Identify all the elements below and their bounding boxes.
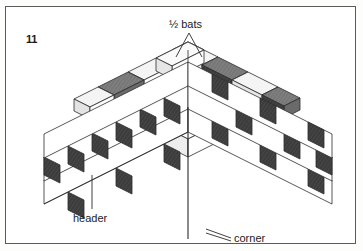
label-bats-text: bats — [181, 18, 202, 30]
figure-frame: 11 ½ bats header corner — [5, 6, 356, 244]
brickwork-isometric-drawing — [6, 7, 363, 251]
corner-leader — [206, 229, 231, 241]
fraction-one-half: ½ — [169, 18, 178, 30]
label-corner: corner — [234, 232, 265, 244]
label-bats: ½ bats — [169, 18, 202, 30]
label-header: header — [73, 212, 107, 224]
figure-number: 11 — [26, 33, 37, 45]
